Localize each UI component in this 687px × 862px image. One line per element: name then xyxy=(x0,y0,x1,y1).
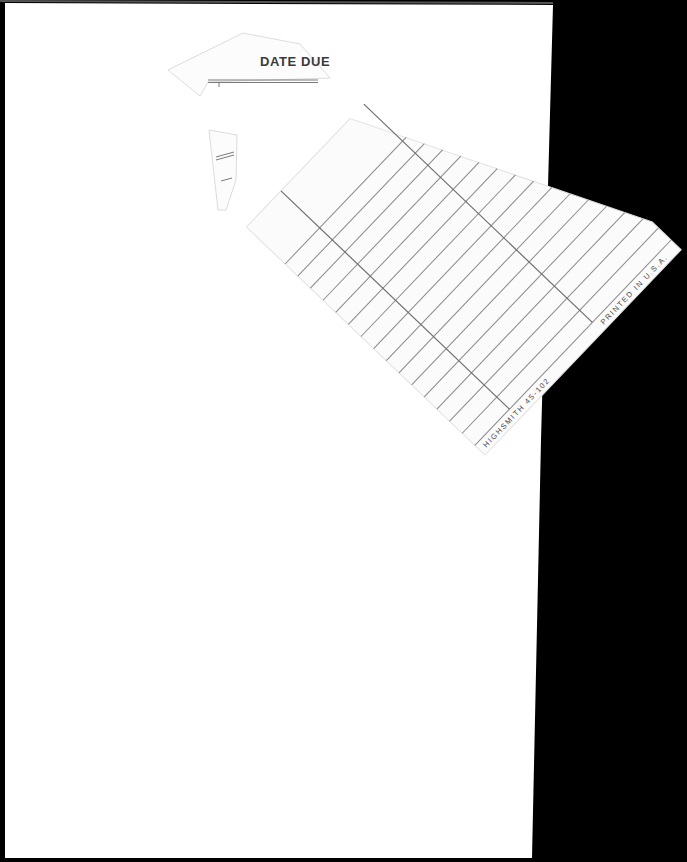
page-top-edge xyxy=(0,1,553,3)
scanned-page: DATE DUE HIGHSMITH 45-102 PRINTED IN U.S… xyxy=(0,0,687,862)
date-due-header: DATE DUE xyxy=(260,54,330,69)
